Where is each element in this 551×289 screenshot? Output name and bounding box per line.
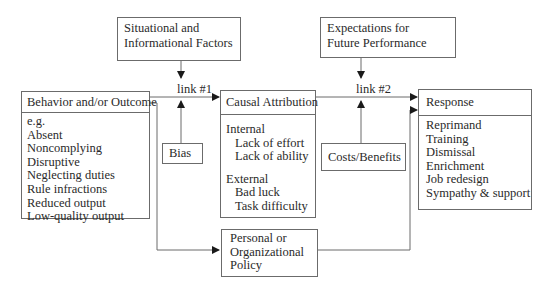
situational-line-1: Situational and [124,21,234,36]
response-item: Sympathy & support [426,187,524,201]
response-item: Dismissal [426,146,524,160]
policy-line-2: Organizational [230,246,309,260]
behavior-item: Disruptive [27,156,144,170]
costs-benefits-node: Costs/Benefits [321,143,406,171]
expectations-node: Expectations for Future Performance [320,17,456,58]
external-item: Bad luck [226,186,310,200]
situational-factors-node: Situational and Informational Factors [117,17,241,61]
behavior-item: Low-quality output [27,210,144,224]
response-title: Response [419,90,531,116]
response-node: Response Reprimand Training Dismissal En… [418,89,532,210]
internal-item: Lack of ability [226,150,310,164]
internal-label: Internal [226,123,310,137]
response-item: Job redesign [426,173,524,187]
expectations-line-2: Future Performance [327,36,449,51]
behavior-item: Absent [27,129,144,143]
situational-line-2: Informational Factors [124,36,234,51]
link-2-label: link #2 [356,82,391,97]
response-item: Reprimand [426,119,524,133]
causal-title: Causal Attribution [221,91,315,115]
costs-label: Costs/Benefits [322,144,405,171]
internal-item: Lack of effort [226,137,310,151]
behavior-outcome-node: Behavior and/or Outcome e.g. Absent Nonc… [21,91,150,219]
behavior-title: Behavior and/or Outcome [22,92,149,113]
behavior-item: Neglecting duties [27,169,144,183]
response-item: Training [426,133,524,147]
policy-node: Personal or Organizational Policy [221,229,318,277]
behavior-item: e.g. [27,115,144,129]
behavior-item: Rule infractions [27,183,144,197]
bias-label: Bias [163,144,202,163]
response-item: Enrichment [426,160,524,174]
behavior-item: Noncomplying [27,142,144,156]
policy-line-3: Policy [230,259,309,273]
external-label: External [226,173,310,187]
causal-attribution-node: Causal Attribution Internal Lack of effo… [220,90,316,218]
link-1-label: link #1 [177,82,212,97]
expectations-line-1: Expectations for [327,21,449,36]
policy-line-1: Personal or [230,232,309,246]
behavior-item: Reduced output [27,197,144,211]
bias-node: Bias [162,143,203,164]
external-item: Task difficulty [226,200,310,214]
